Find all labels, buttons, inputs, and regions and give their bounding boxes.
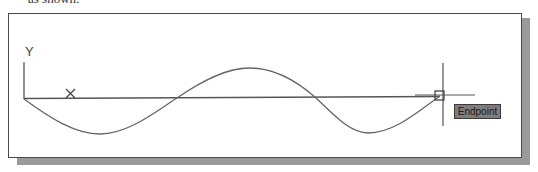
horizontal-line[interactable] [24, 97, 440, 99]
drawing-canvas[interactable] [0, 0, 538, 172]
sine-curve[interactable] [24, 68, 440, 134]
y-axis-label: Y [25, 45, 34, 58]
x-marker-icon [66, 89, 75, 98]
endpoint-snap-tooltip: Endpoint [454, 104, 501, 119]
